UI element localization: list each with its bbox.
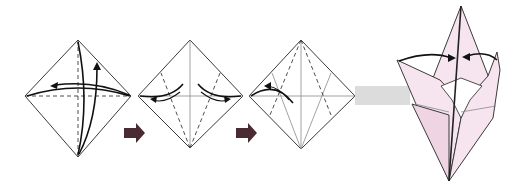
step-4-model (397, 6, 500, 181)
transition-band (355, 86, 410, 105)
origami-diagram (0, 0, 523, 193)
step-2-diamond (138, 40, 243, 148)
step-3-diamond (249, 40, 355, 149)
next-step-arrow-icon (236, 123, 257, 143)
step-1-diamond (25, 40, 131, 157)
next-step-arrow-icon (124, 123, 145, 143)
